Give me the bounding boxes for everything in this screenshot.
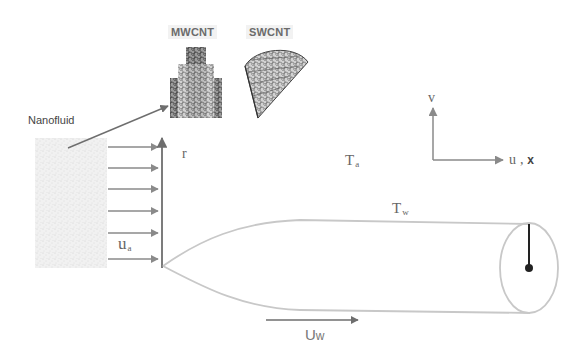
coord-ux-label: u , x [509,151,534,168]
t-subscript: a [355,159,359,169]
wall-temperature-label: Tw [392,200,409,217]
t-symbol: T [345,152,354,168]
uw-symbol: U [305,326,316,343]
coord-sep: , [520,152,524,167]
u-symbol: u [118,234,127,253]
uw-subscript: w [316,329,325,343]
upper-boundary-curve [163,220,530,266]
nanofluid-block [35,138,107,268]
u-subscript: a [128,243,132,253]
tw-subscript: w [402,207,409,217]
coord-v-label: v [428,90,435,106]
tw-symbol: T [392,200,401,216]
free-stream-velocity-label: ua [118,234,132,254]
coord-u-label: u [509,152,516,167]
mwcnt-label: MWCNT [168,25,217,39]
inflow-arrows [108,147,158,259]
lower-boundary-curve [163,266,530,313]
center-dot [525,264,533,272]
nanofluid-pointer [68,106,168,148]
mwcnt-illustration [170,47,222,118]
coord-x-label: x [527,153,534,167]
nanofluid-label: Nanofluid [28,114,74,126]
wall-velocity-label: Uw [305,326,325,343]
radial-axis-label: r [182,146,187,162]
diagram-canvas [0,0,580,361]
swcnt-label: SWCNT [246,25,293,39]
ambient-temperature-label: Ta [345,152,359,169]
swcnt-illustration [245,50,308,118]
